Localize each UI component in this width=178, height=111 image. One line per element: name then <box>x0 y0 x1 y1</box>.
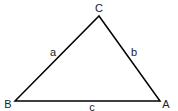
triangle-diagram: A B C a b c <box>0 0 178 111</box>
side-label-a: a <box>50 46 57 58</box>
side-label-c: c <box>89 101 95 111</box>
triangle-shape <box>15 16 160 101</box>
side-label-b: b <box>131 46 137 58</box>
vertex-label-a: A <box>162 98 170 110</box>
vertex-label-c: C <box>95 2 103 14</box>
vertex-label-b: B <box>4 98 11 110</box>
